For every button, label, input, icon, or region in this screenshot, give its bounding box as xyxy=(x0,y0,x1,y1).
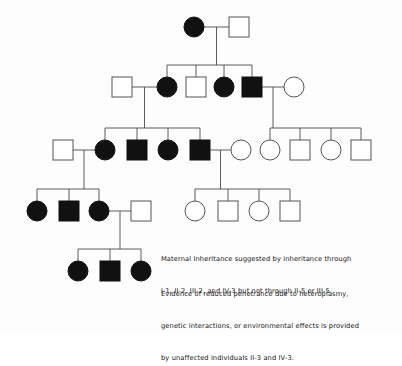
individual-III-6-unaffected-female xyxy=(260,140,280,160)
individual-III-3-affected-male xyxy=(127,140,147,160)
individual-IV-s1-unaffected-male xyxy=(131,201,151,221)
individual-III-7-unaffected-male xyxy=(290,140,310,160)
individual-I-1-affected-female xyxy=(184,17,204,37)
individual-I-2-unaffected-male xyxy=(229,17,249,37)
individual-IV-4-unaffected-female xyxy=(185,201,205,221)
individual-IV-2-affected-male xyxy=(59,201,79,221)
individual-III-9-unaffected-male xyxy=(351,140,371,160)
legend-line: Maternal Inheritance suggested by inheri… xyxy=(161,254,351,265)
legend-line: by unaffected individuals II-3 and IV-3. xyxy=(161,353,359,364)
individual-V-2-affected-male xyxy=(100,261,120,281)
legend-paragraph-reduced-penetrance: Evidence of reduced penetrance due to he… xyxy=(161,268,359,366)
individual-III-s1-unaffected-male xyxy=(53,140,73,160)
individual-IV-6-unaffected-female xyxy=(249,201,269,221)
individual-V-1-affected-female xyxy=(68,261,88,281)
individual-III-2-affected-female xyxy=(95,140,115,160)
individual-II-4-affected-female xyxy=(214,77,234,97)
individual-II-s2-unaffected-female xyxy=(284,77,304,97)
individual-IV-5-unaffected-male xyxy=(218,201,238,221)
individual-IV-1-affected-female xyxy=(27,201,47,221)
individual-II-3-unaffected-male xyxy=(186,77,206,97)
legend-line: Evidence of reduced penetrance due to he… xyxy=(161,289,359,300)
individual-II-s1-unaffected-male xyxy=(112,77,132,97)
individual-IV-3-affected-female xyxy=(89,201,109,221)
individual-III-5-affected-male xyxy=(190,140,210,160)
individual-II-5-affected-male xyxy=(242,77,262,97)
individual-III-4-affected-female xyxy=(158,140,178,160)
individual-III-8-unaffected-female xyxy=(321,140,341,160)
individual-III-s2-unaffected-female xyxy=(231,140,251,160)
individual-IV-7-unaffected-male xyxy=(280,201,300,221)
individual-V-3-affected-female xyxy=(131,261,151,281)
individual-II-2-affected-female xyxy=(157,77,177,97)
legend-line: genetic interactions, or environmental e… xyxy=(161,321,359,332)
